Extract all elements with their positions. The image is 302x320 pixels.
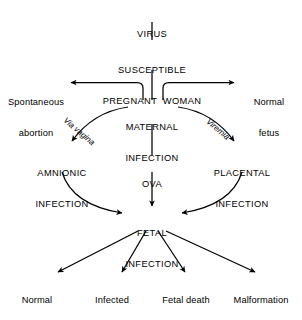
node-placental-infection-line1: PLACENTAL <box>196 168 288 178</box>
node-normal-fetus-bottom: Normal fetus <box>8 274 66 320</box>
node-malformation-line1: Malformation <box>222 295 300 305</box>
node-normal-fetus-bottom-line1: Normal <box>8 295 66 305</box>
node-normal-fetus-top-line1: Normal <box>240 97 298 107</box>
node-spontaneous-abortion-line1: Spontaneous <box>2 97 70 107</box>
node-placental-infection-line2: INFECTION <box>196 199 288 209</box>
node-amnionic-infection: AMNIONIC INFECTION <box>16 147 108 230</box>
node-susceptible-line1: SUSCEPTIBLE <box>82 65 222 75</box>
viral-infection-flowchart: VIRUS SUSCEPTIBLE PREGNANT WOMAN Spontan… <box>0 0 302 320</box>
node-amnionic-infection-line1: AMNIONIC <box>16 168 108 178</box>
node-virus-label: VIRUS <box>122 29 182 39</box>
node-fetal-infection-line1: FETAL <box>106 228 198 238</box>
node-infected-fetus: Infected fetus (± disease) <box>74 274 150 320</box>
node-amnionic-infection-line2: INFECTION <box>16 199 108 209</box>
node-placental-infection: PLACENTAL INFECTION <box>196 147 288 230</box>
node-ova: OVA <box>130 158 174 210</box>
node-infected-fetus-line1: Infected <box>74 295 150 305</box>
node-fetal-death: Fetal death (abortion; stillbirth) <box>148 274 224 320</box>
node-normal-fetus-top-line2: fetus <box>240 128 298 138</box>
node-ova-label: OVA <box>130 179 174 189</box>
node-maternal-infection-line1: MATERNAL <box>104 122 200 132</box>
node-fetal-infection-line2: INFECTION <box>106 259 198 269</box>
path-label-viremia-text: Viremia <box>204 117 231 142</box>
node-fetal-death-line1: Fetal death <box>148 295 224 305</box>
node-malformation: Malformation (± death) <box>222 274 300 320</box>
